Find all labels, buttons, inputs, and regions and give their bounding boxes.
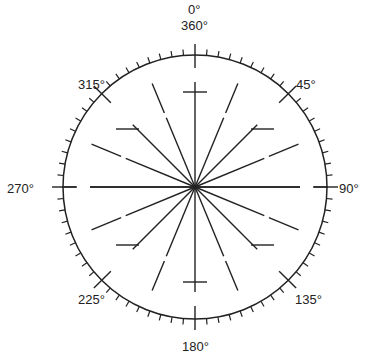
label-135: 135°: [295, 293, 322, 306]
compass-dial: [0, 0, 371, 362]
label-90: 90°: [339, 182, 359, 195]
radial-rays: [62, 82, 328, 292]
label-315: 315°: [78, 78, 105, 91]
label-45: 45°: [296, 78, 316, 91]
label-0: 0°: [188, 3, 200, 16]
label-180: 180°: [182, 340, 209, 353]
label-225: 225°: [78, 293, 105, 306]
label-360: 360°: [181, 19, 208, 32]
label-270: 270°: [7, 182, 34, 195]
